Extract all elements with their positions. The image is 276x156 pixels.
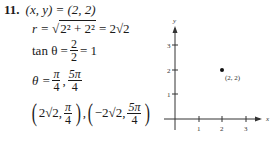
data-point bbox=[220, 68, 224, 72]
x-tick-1: 1 bbox=[197, 125, 201, 133]
y-arrow-icon bbox=[173, 26, 178, 33]
y-tick-2: 2 bbox=[167, 67, 171, 75]
y-tick-1: 1 bbox=[167, 91, 171, 99]
x-tick-2: 2 bbox=[220, 125, 224, 133]
y-axis-label: y bbox=[172, 17, 177, 25]
coordinate-plot: x y 1 2 3 1 2 3 (2, 2) bbox=[0, 0, 276, 156]
y-tick-3: 3 bbox=[167, 42, 171, 50]
point-label: (2, 2) bbox=[225, 74, 241, 82]
x-axis-label: x bbox=[265, 115, 270, 123]
x-tick-3: 3 bbox=[244, 125, 248, 133]
x-arrow-icon bbox=[255, 117, 262, 122]
